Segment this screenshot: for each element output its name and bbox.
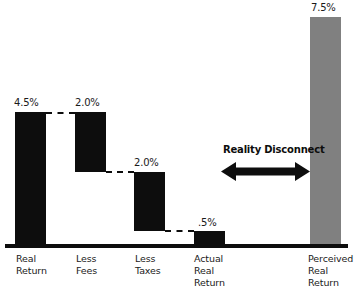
waterfall-chart: 4.5% 2.0% 2.0% .5% 7.5% Reality Disconne… <box>0 0 358 293</box>
connector-1 <box>46 112 75 114</box>
value-label-less-fees: 2.0% <box>75 97 100 108</box>
bar-less-taxes <box>134 172 165 231</box>
category-label-less-fees: Less Fees <box>76 253 97 277</box>
reality-disconnect-label: Reality Disconnect <box>223 144 324 155</box>
value-label-less-taxes: 2.0% <box>134 157 159 168</box>
bar-real-return <box>15 112 46 245</box>
bar-actual-real-return <box>194 231 225 245</box>
category-label-real-return: Real Return <box>16 253 47 277</box>
category-label-less-taxes: Less Taxes <box>135 253 161 277</box>
category-label-perceived-real-return: Perceived Real Return <box>308 253 353 289</box>
category-label-actual-real-return: Actual Real Return <box>194 253 225 289</box>
bar-perceived-real-return <box>310 17 341 245</box>
connector-2 <box>106 171 134 173</box>
connector-3 <box>165 230 194 232</box>
value-label-real-return: 4.5% <box>14 97 39 108</box>
reality-disconnect-arrow <box>221 161 310 182</box>
plot-area: 4.5% 2.0% 2.0% .5% 7.5% Reality Disconne… <box>0 0 358 293</box>
value-label-perceived-real-return: 7.5% <box>311 2 336 13</box>
value-label-actual-real-return: .5% <box>198 217 216 228</box>
x-axis-baseline <box>5 244 348 248</box>
bar-less-fees <box>75 112 106 172</box>
